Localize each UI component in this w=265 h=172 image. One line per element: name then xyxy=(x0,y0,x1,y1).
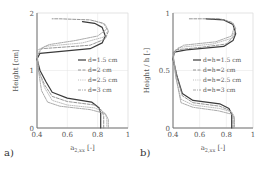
figure: 0.40.60.81012d=1.5 cmd=2 cmd=2.5 cmd=3 c… xyxy=(0,0,265,172)
legend-label: d=h=2.5 cm xyxy=(203,76,242,83)
series-line xyxy=(37,22,105,128)
x-tick-label: 0.6 xyxy=(194,131,206,139)
x-tick-label: 1 xyxy=(251,131,255,139)
x-tick-label: 0.6 xyxy=(62,131,74,139)
legend-label: d=2 cm xyxy=(88,66,112,73)
y-tick-label: 0.5 xyxy=(159,67,170,75)
x-tick-label: 0.8 xyxy=(92,131,103,139)
y-axis-label: Height [cm] xyxy=(12,49,20,92)
x-tick-label: 1 xyxy=(126,131,130,139)
y-tick-label: 1 xyxy=(166,10,170,18)
y-tick-label: 0 xyxy=(166,125,170,133)
x-axis-label: a2,xx [-] xyxy=(70,144,95,153)
legend-label: d=h=2 cm xyxy=(203,66,236,73)
y-axis-label: Height / h [-] xyxy=(143,47,151,93)
chart-panel-b: 0.40.60.8100.51d=h=1.5 cmd=h=2 cmd=h=2.5… xyxy=(140,10,255,159)
panel-label: b) xyxy=(140,147,150,158)
legend-label: d=2.5 cm xyxy=(88,76,118,83)
chart-panel-a: 0.40.60.81012d=1.5 cmd=2 cmd=2.5 cmd=3 c… xyxy=(4,10,130,159)
y-tick-label: 1 xyxy=(30,67,34,75)
x-tick-label: 0.8 xyxy=(221,131,232,139)
y-tick-label: 2 xyxy=(30,10,34,18)
legend-label: d=3 cm xyxy=(88,86,112,93)
y-tick-label: 0 xyxy=(30,125,34,133)
x-axis-label: a2,xx [-] xyxy=(201,144,226,153)
legend-label: d=h=3 cm xyxy=(203,86,236,93)
legend-label: d=1.5 cm xyxy=(88,56,118,63)
legend-label: d=h=1.5 cm xyxy=(203,56,242,63)
panel-label: a) xyxy=(4,147,14,158)
